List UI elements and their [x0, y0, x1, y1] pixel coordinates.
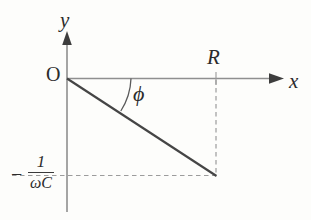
reactance-minus-sign: −	[11, 164, 22, 184]
phase-angle-arc	[121, 79, 131, 112]
x-axis-arrow-icon	[269, 73, 284, 83]
resistance-label: R	[207, 47, 220, 68]
x-axis-label: x	[289, 71, 298, 92]
reactance-numerator: 1	[28, 153, 54, 172]
origin-label: O	[46, 64, 60, 84]
y-axis-arrow-icon	[62, 31, 72, 45]
y-axis-label: y	[60, 10, 69, 31]
reactance-denominator: ωC	[28, 173, 54, 192]
phasor-diagram-figure: y x O R ϕ − 1 ωC	[0, 0, 311, 220]
phase-angle-label: ϕ	[133, 83, 144, 105]
reactance-fraction-label: 1 ωC	[28, 153, 54, 191]
